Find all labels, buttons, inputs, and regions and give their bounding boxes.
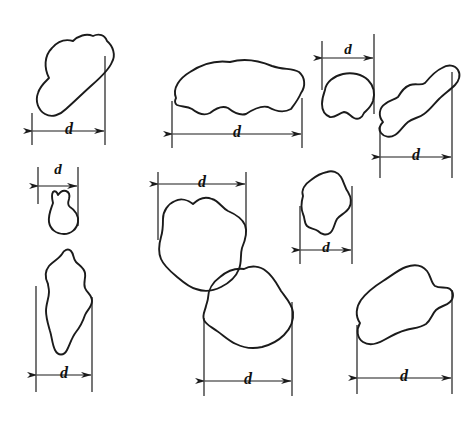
figure-background [0,0,472,427]
particle-5-dim-label: d [54,161,62,177]
particle-3-dim-label: d [344,41,352,57]
particle-1-dim-label: d [65,120,74,137]
particle-4-dim-label: d [412,146,421,163]
particle-9-dim-label: d [244,370,253,387]
particle-10-dim-label: d [400,367,409,384]
particle-2-dim-label: d [233,123,242,140]
particle-7-dim-label: d [198,173,207,190]
figure-root: d d d d d d [0,0,472,427]
particle-6-dim-label: d [60,364,69,381]
particle-diameter-figure: d d d d d d [0,0,472,427]
particle-8-dim-label: d [322,239,330,255]
